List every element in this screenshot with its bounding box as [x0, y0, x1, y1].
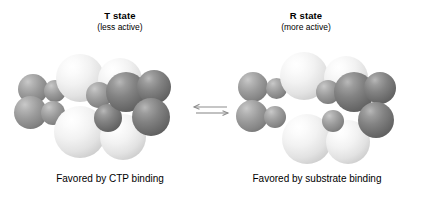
t-state-heading: T state (less active) [50, 11, 190, 32]
subunit-sphere [364, 72, 396, 104]
subunit-sphere [358, 102, 394, 138]
t-state-subtitle: (less active) [50, 23, 190, 32]
subunit-sphere [238, 72, 268, 102]
equilibrium-arrow [191, 100, 231, 120]
r-state-heading: R state (more active) [236, 11, 376, 32]
allosteric-state-figure: T state (less active) R state (more acti… [0, 0, 421, 198]
subunit-sphere [264, 106, 286, 128]
r-state-caption: Favored by substrate binding [222, 173, 412, 184]
r-state-subtitle: (more active) [236, 23, 376, 32]
r-state-title: R state [236, 11, 376, 21]
t-state-caption: Favored by CTP binding [20, 173, 200, 184]
subunit-sphere [322, 110, 344, 132]
t-state-molecule-model [8, 48, 188, 168]
subunit-sphere [132, 98, 170, 136]
equilibrium-arrow-icon [191, 100, 231, 120]
t-state-title: T state [50, 11, 190, 21]
r-state-molecule-model [230, 48, 410, 168]
